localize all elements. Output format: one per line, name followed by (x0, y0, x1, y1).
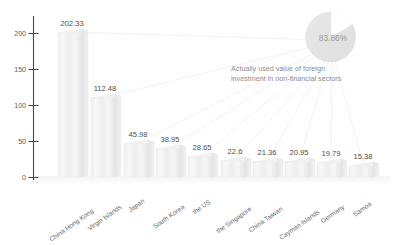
bar-item[interactable]: 28.65 (188, 143, 218, 177)
bar-side-face (82, 29, 88, 177)
bar-side-face (341, 159, 347, 177)
x-axis-category-labels: China Hong Kong Virgin Islands Japan Sou… (48, 197, 373, 244)
bar-side-face (115, 94, 121, 177)
connector-line (331, 57, 332, 162)
bar-item[interactable]: 19.79 (317, 149, 347, 177)
pie-annotation: Actually used value of foreign investmen… (231, 64, 342, 83)
category-label: Samoa (351, 200, 372, 218)
bar-front-face (91, 98, 115, 177)
bar-side-face (277, 158, 283, 177)
bar-front-face (285, 162, 309, 177)
category-label: Virgin Islands (86, 203, 123, 233)
bar-front-face (58, 33, 82, 177)
y-tick-label: 50 (18, 138, 26, 145)
y-tick-100: 100 (14, 102, 38, 109)
bar-side-face (245, 157, 251, 177)
chart-floor-shadow (32, 176, 390, 185)
bar-value-label: 28.65 (192, 143, 211, 152)
category-label: Japan (127, 197, 147, 214)
bar-chart-with-pie-inset: 200 150 100 50 0 (0, 0, 397, 245)
bar-value-label: 20.95 (289, 148, 308, 157)
bar-side-face (373, 162, 379, 177)
bar-front-face (349, 166, 373, 177)
bar-front-face (317, 163, 341, 177)
annotation-line-1: Actually used value of foreign (231, 64, 325, 73)
bar-front-face (188, 157, 212, 177)
bar-value-label: 38.95 (160, 135, 179, 144)
bar-item[interactable]: 15.38 (349, 152, 379, 177)
category-label: Germany (319, 203, 346, 226)
y-tick-200: 200 (14, 30, 38, 37)
bar-front-face (253, 162, 277, 177)
y-tick-label: 100 (14, 102, 26, 109)
category-label: China Taiwan (247, 205, 284, 234)
bar-front-face (156, 149, 180, 177)
category-label: the Singapore (215, 205, 253, 235)
connector-line (138, 48, 325, 143)
bar-value-label: 45.98 (128, 130, 147, 139)
annotation-line-2: investment in non-financial sectors (231, 74, 342, 83)
pie-inset[interactable]: 83.86% (306, 12, 356, 62)
bar-front-face (221, 161, 245, 177)
y-tick-150: 150 (14, 66, 38, 73)
y-tick-50: 50 (18, 138, 38, 145)
pie-percentage-label: 83.86% (319, 33, 348, 43)
bar-side-face (309, 158, 315, 177)
connector-line (72, 32, 324, 40)
bar-side-face (212, 153, 218, 177)
y-axis: 200 150 100 50 0 (14, 16, 38, 181)
category-label: Cayman Islands (278, 208, 322, 242)
bar-side-face (180, 145, 186, 177)
bar-front-face (124, 144, 148, 177)
bar-side-face (148, 140, 154, 177)
bar-value-label: 21.36 (257, 148, 276, 157)
bar-value-label: 19.79 (321, 149, 340, 158)
bar-item[interactable]: 112.48 (91, 84, 121, 177)
bar-value-label: 22.6 (228, 147, 243, 156)
bar-item[interactable]: 22.6 (221, 147, 251, 177)
bar-value-label: 112.48 (94, 84, 117, 93)
bar-item[interactable]: 202.33 (58, 19, 88, 177)
category-label: the US (191, 198, 212, 216)
bar-value-label: 15.38 (353, 152, 372, 161)
bar-item[interactable]: 38.95 (156, 135, 186, 177)
bar-item[interactable]: 21.36 (253, 148, 283, 177)
category-label: South Korea (152, 203, 186, 230)
bar-item[interactable]: 20.95 (285, 148, 315, 177)
y-tick-label: 150 (14, 66, 26, 73)
y-tick-label: 0 (22, 174, 26, 181)
chart-container: 200 150 100 50 0 (0, 0, 397, 245)
bar-value-label: 202.33 (60, 19, 83, 28)
y-tick-label: 200 (14, 30, 26, 37)
